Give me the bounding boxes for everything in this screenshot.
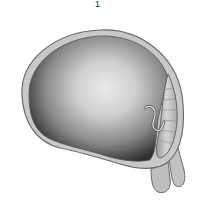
anatomical-illustration <box>0 0 203 200</box>
